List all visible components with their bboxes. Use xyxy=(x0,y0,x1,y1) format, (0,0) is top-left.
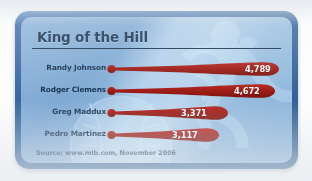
table-row: Greg Maddux xyxy=(21,103,292,123)
table-row: Pedro Martinez xyxy=(21,125,292,145)
bar-label: Pedro Martinez xyxy=(21,129,106,138)
bar-value: 4,789 xyxy=(245,64,271,74)
chart-card-frame: King of the Hill Randy Johnson xyxy=(15,11,298,169)
bar-value: 4,672 xyxy=(234,86,260,96)
bar-chart-plot: Randy Johnson xyxy=(21,59,292,145)
chart-card-panel: King of the Hill Randy Johnson xyxy=(21,17,292,163)
table-row: Rodger Clemens xyxy=(21,81,292,101)
bar-label: Rodger Clemens xyxy=(21,85,106,94)
bar-bat-greg-maddux[interactable] xyxy=(107,103,228,123)
bar-value: 3,371 xyxy=(181,108,207,118)
page-title: King of the Hill xyxy=(37,29,148,45)
page-background: King of the Hill Randy Johnson xyxy=(0,0,312,181)
bar-label: Randy Johnson xyxy=(21,63,106,72)
bar-bat-pedro-martinez[interactable] xyxy=(107,125,219,145)
table-row: Randy Johnson xyxy=(21,59,292,79)
bar-label: Greg Maddux xyxy=(21,107,106,116)
bar-value: 3,117 xyxy=(172,130,198,140)
source-note: Source: www.mlb.com, November 2006 xyxy=(36,149,176,157)
title-divider xyxy=(32,48,281,49)
